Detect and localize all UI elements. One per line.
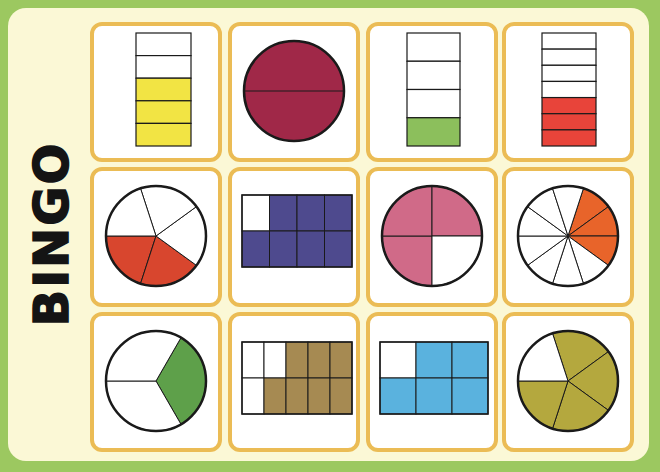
bingo-title-text: BINGO [23, 142, 79, 327]
fraction-bar-3-of-5 [94, 26, 218, 158]
fraction-grid-5-of-6 [370, 316, 494, 448]
bingo-card-r1c4-bar-3-of-7[interactable] [502, 22, 634, 162]
fraction-grid-7-of-10 [232, 316, 356, 448]
fraction-circle-3-of-10 [506, 171, 630, 303]
bingo-card-r1c3-bar-1-of-4[interactable] [366, 22, 498, 162]
bingo-card-r1c2-circle-2-of-2[interactable] [228, 22, 360, 162]
fraction-bar-1-of-4 [370, 26, 494, 158]
fraction-bar-3-of-7 [506, 26, 630, 158]
bingo-card-r1c1-bar-3-of-5[interactable] [90, 22, 222, 162]
bingo-card-r2c1-circle-2-of-5[interactable] [90, 167, 222, 307]
fraction-circle-1-of-3 [94, 316, 218, 448]
fraction-circle-2-of-5 [94, 171, 218, 303]
fraction-circle-3-of-4 [370, 171, 494, 303]
bingo-card-r2c3-circle-3-of-4[interactable] [366, 167, 498, 307]
fraction-grid-7-of-8 [232, 171, 356, 303]
fraction-circle-4-of-5 [506, 316, 630, 448]
bingo-card-r3c1-circle-1-of-3[interactable] [90, 312, 222, 452]
bingo-title: BINGO [26, 126, 76, 342]
fraction-circle-2-of-2 [232, 26, 356, 158]
bingo-card-r3c2-grid-7-of-10[interactable] [228, 312, 360, 452]
bingo-card-r2c4-circle-3-of-10[interactable] [502, 167, 634, 307]
bingo-card-r3c3-grid-5-of-6[interactable] [366, 312, 498, 452]
bingo-card-r3c4-circle-4-of-5[interactable] [502, 312, 634, 452]
bingo-card-r2c2-grid-7-of-8[interactable] [228, 167, 360, 307]
